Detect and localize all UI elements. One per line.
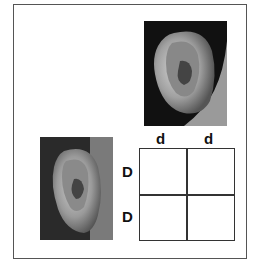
punnett-square-grid (139, 148, 235, 241)
row-allele-1: D (122, 164, 133, 179)
free-earlobe-photo (144, 21, 227, 126)
column-allele-2: d (204, 131, 213, 146)
column-allele-1: d (156, 131, 165, 146)
attached-earlobe-photo (40, 137, 113, 240)
grid-divider-horizontal (140, 194, 234, 196)
row-allele-2: D (122, 209, 133, 224)
